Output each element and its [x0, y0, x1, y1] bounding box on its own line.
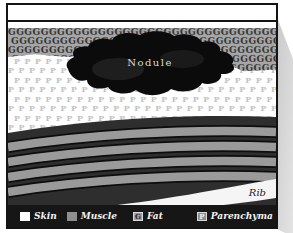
- parenchyma-swatch: P: [197, 212, 207, 221]
- tissue-diagram-card: PPPPPPPPPPPPPPPPPPPPPPPPPPPPPPPPPPPPPPPP…: [6, 3, 278, 229]
- legend-label-parenchyma: Parenchyma: [211, 211, 273, 221]
- nodule-label: Nodule: [127, 57, 173, 68]
- legend-item-fat: G Fat: [133, 211, 163, 221]
- legend-label-fat: Fat: [147, 211, 163, 221]
- legend-label-skin: Skin: [34, 211, 57, 221]
- muscle-swatch: [67, 212, 77, 221]
- legend-label-muscle: Muscle: [81, 211, 117, 221]
- legend-bar: Skin Muscle G Fat P Parenchyma Rib cage: [8, 205, 276, 227]
- legend-item-skin: Skin: [20, 211, 57, 221]
- legend-item-muscle: Muscle: [67, 211, 117, 221]
- legend-item-parenchyma: P Parenchyma: [197, 211, 273, 221]
- skin-swatch: [20, 212, 30, 221]
- rib-label: Rib: [248, 187, 266, 198]
- skin-layer: [8, 5, 276, 22]
- fat-swatch: G: [133, 212, 143, 221]
- nodule: Nodule: [60, 31, 238, 101]
- card-drop-shadow: [276, 10, 293, 233]
